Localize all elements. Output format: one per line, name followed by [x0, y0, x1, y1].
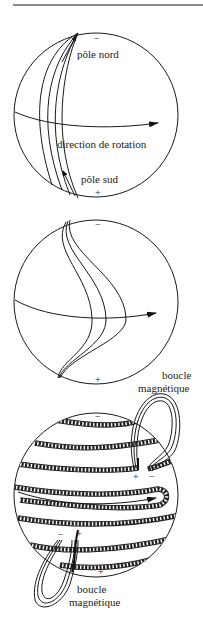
toroidal-ropes	[14, 420, 180, 568]
field-line	[60, 220, 126, 378]
rotation-arrow-icon	[15, 112, 158, 127]
top-loop-plus: +	[133, 471, 139, 482]
field-line	[40, 33, 78, 185]
north-sign: −	[94, 33, 100, 44]
south-sign: +	[95, 187, 101, 198]
field-line	[55, 33, 78, 195]
bottom-loop-minus: −	[58, 529, 64, 540]
loop-label-bottom-line1: boucle	[77, 583, 106, 595]
rope-band	[148, 458, 180, 469]
panel-1-sphere: − pôle nord direction de rotation pôle s…	[14, 33, 178, 198]
solar-dynamo-diagram: − pôle nord direction de rotation pôle s…	[0, 0, 203, 629]
south-sign: +	[95, 374, 101, 385]
rope-band	[35, 438, 170, 448]
sun-outline	[14, 220, 178, 384]
north-pole-label: pôle nord	[77, 48, 119, 60]
rotation-arrow-icon	[15, 300, 156, 318]
loop-label-bottom-line2: magnétique	[69, 596, 120, 608]
field-line	[48, 33, 78, 190]
north-sign: −	[95, 219, 101, 230]
loop-label-top-line2: magnétique	[138, 382, 189, 394]
panel-2-sphere: − +	[14, 219, 178, 385]
rope-band	[18, 515, 180, 524]
rope-band	[18, 464, 138, 470]
north-sign: −	[95, 411, 101, 422]
rotation-label: direction de rotation	[57, 138, 147, 150]
panel-3-sphere: + − − + − +	[14, 394, 180, 607]
loop-label-top-line1: boucle	[162, 369, 191, 381]
field-line	[59, 221, 106, 378]
top-loop-minus: −	[149, 471, 155, 482]
magnetic-loop-top	[131, 394, 180, 471]
bottom-loop-plus: +	[76, 528, 82, 539]
south-pole-label: pôle sud	[81, 173, 118, 185]
south-sign: +	[98, 566, 104, 577]
